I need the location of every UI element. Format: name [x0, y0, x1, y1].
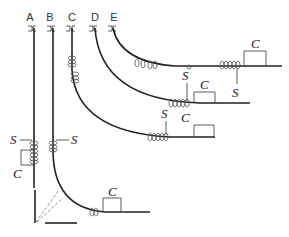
label-a: A: [26, 11, 34, 23]
label-b: B: [46, 11, 53, 23]
c-brackets: [21, 51, 266, 212]
symbol-c-a: C: [13, 166, 22, 181]
symbol-s-b: S: [71, 132, 78, 147]
label-d: D: [91, 11, 99, 23]
axis-inset: [35, 190, 77, 223]
symbol-c-e: C: [251, 36, 260, 51]
symbol-c-d: C: [200, 77, 209, 92]
symbol-c-b: C: [108, 184, 117, 199]
symbol-s-c: S: [161, 106, 168, 121]
symbol-s-a: S: [10, 132, 17, 147]
symbol-s-d: S: [182, 68, 189, 83]
symbol-c-c: C: [181, 110, 190, 125]
label-e: E: [110, 11, 117, 23]
label-c: C: [68, 11, 76, 23]
diagram-canvas: A B C D E: [0, 0, 289, 237]
path-c: [72, 28, 215, 137]
symbol-s-e: S: [232, 85, 239, 100]
